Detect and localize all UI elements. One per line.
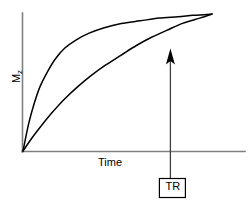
y-axis-label-base: M [10,74,22,83]
tr-label-text: TR [160,181,186,192]
curve-short-t1 [23,14,212,151]
y-axis-label-subscript: z [15,70,24,74]
y-axis-label: Mz [11,57,24,97]
curve-long-t1 [23,14,212,151]
plot-canvas [0,0,248,201]
x-axis-label: Time [98,157,122,168]
mz-recovery-figure: Mz Time TR [0,0,248,201]
